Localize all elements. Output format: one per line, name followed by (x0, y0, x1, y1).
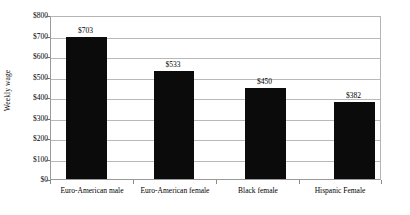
y-tick-label: $600 (4, 53, 48, 61)
x-tick-mark (133, 180, 134, 184)
bar-value-label: $703 (61, 26, 111, 35)
y-tick-label: $200 (4, 135, 48, 143)
bar-chart: Weekly wage $800 $700 $600 $500 $400 $30… (0, 0, 410, 215)
x-tick-mark (381, 180, 382, 184)
x-tick-mark (299, 180, 300, 184)
y-axis-title: Weekly wage (0, 0, 16, 180)
y-tick-label: $300 (4, 115, 48, 123)
x-tick-mark (216, 180, 217, 184)
bar-value-label: $382 (329, 91, 379, 100)
y-tick-label: $500 (4, 74, 48, 82)
bar-black-female (245, 88, 286, 179)
x-category-label-euro-american-male: Euro-American male (46, 186, 138, 195)
bar-value-label: $450 (240, 77, 290, 86)
bar-value-label: $533 (148, 60, 198, 69)
x-tick-mark (50, 180, 51, 184)
y-tick-label: $700 (4, 33, 48, 41)
x-category-label-black-female: Black female (212, 186, 304, 195)
y-tick-label: $100 (4, 156, 48, 164)
bar-euro-american-male (66, 37, 107, 179)
y-tick-label: $0 (4, 176, 48, 184)
x-category-label-hispanic-female: Hispanic Female (294, 186, 386, 195)
x-category-label-euro-american-female: Euro-American female (128, 186, 222, 195)
y-tick-label: $400 (4, 94, 48, 102)
bar-euro-american-female (154, 71, 194, 179)
bar-hispanic-female (334, 102, 375, 179)
y-tick-label: $800 (4, 12, 48, 20)
